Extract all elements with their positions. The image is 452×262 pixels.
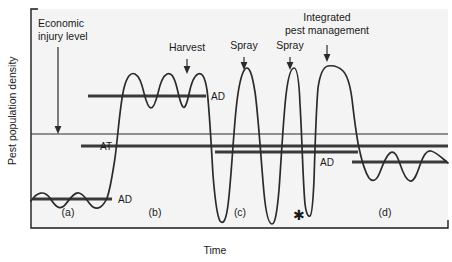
pest-population-chart: Pest population density Time Economic in…: [0, 0, 452, 262]
spray-1-annotation: Spray: [230, 39, 258, 51]
spray-2-annotation: Spray: [276, 39, 304, 51]
pest-population-figure: Pest population density Time Economic in…: [0, 0, 452, 262]
harvest-annotation: Harvest: [169, 41, 205, 53]
phase-label-a: (a): [62, 206, 75, 218]
phase-label-c: (c): [234, 206, 246, 218]
phase-label-b: (b): [149, 206, 162, 218]
threshold-label-at: AT: [100, 141, 112, 152]
threshold-label-ad-a: AD: [118, 194, 132, 205]
threshold-label-ad-b: AD: [211, 91, 225, 102]
threshold-label-ad-d: AD: [320, 157, 334, 168]
y-axis-label: Pest population density: [6, 56, 18, 165]
phase-label-d: (d): [379, 206, 392, 218]
phase-label-star: ✱: [293, 207, 305, 223]
eil-annotation-line1: Economic: [38, 17, 84, 29]
ipm-annotation-line1: Integrated: [303, 11, 350, 23]
eil-annotation-line2: injury level: [38, 30, 88, 42]
ipm-annotation-line2: pest management: [285, 24, 369, 36]
x-axis-label: Time: [204, 244, 227, 256]
